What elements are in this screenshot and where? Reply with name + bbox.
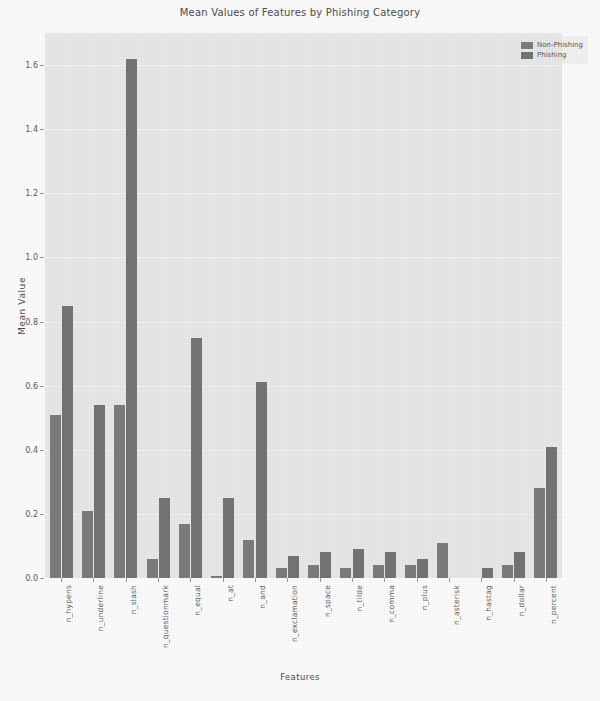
- bar: [256, 382, 267, 578]
- x-tick-label: n_hypens: [64, 585, 73, 622]
- x-tick-label: n_space: [323, 585, 332, 617]
- legend-swatch-icon: [521, 42, 533, 49]
- x-tick-mark: [126, 578, 127, 582]
- bar: [340, 568, 351, 578]
- y-tick-label: 1.4: [25, 125, 38, 134]
- x-tick-mark: [223, 578, 224, 582]
- x-axis-label: Features: [0, 672, 600, 682]
- bar: [405, 565, 416, 578]
- x-tick-mark: [384, 578, 385, 582]
- y-tick-label: 0.6: [25, 381, 38, 390]
- x-tick-label: n_questionmark: [161, 585, 170, 648]
- y-tick-mark: [40, 386, 44, 387]
- bar: [126, 59, 137, 578]
- x-tick-label: n_and: [258, 585, 267, 609]
- x-tick-label: n_tilde: [355, 585, 364, 611]
- x-tick-label: n_equal: [193, 585, 202, 616]
- legend-item-label: Non-Phishing: [537, 41, 583, 49]
- x-tick-label: n_percent: [549, 585, 558, 624]
- x-tick-label: n_plus: [420, 585, 429, 610]
- chart-legend: Non-PhishingPhishing: [516, 36, 588, 64]
- x-tick-label: n_underline: [96, 585, 105, 631]
- legend-swatch-icon: [521, 52, 533, 59]
- x-tick-mark: [481, 578, 482, 582]
- bar: [514, 552, 525, 578]
- legend-item: Non-Phishing: [521, 41, 583, 49]
- bar: [308, 565, 319, 578]
- x-tick-mark: [158, 578, 159, 582]
- y-tick-label: 1.6: [25, 61, 38, 70]
- bar: [223, 498, 234, 578]
- x-tick-label: n_hastag: [484, 585, 493, 621]
- bar: [502, 565, 513, 578]
- bar: [320, 552, 331, 578]
- gridline: [45, 129, 562, 130]
- x-tick-mark: [287, 578, 288, 582]
- x-tick-mark: [190, 578, 191, 582]
- bar: [417, 559, 428, 578]
- bar: [385, 552, 396, 578]
- bar: [82, 511, 93, 578]
- x-tick-mark: [320, 578, 321, 582]
- y-tick-label: 1.2: [25, 189, 38, 198]
- y-tick-mark: [40, 193, 44, 194]
- bar: [534, 488, 545, 578]
- y-tick-mark: [40, 65, 44, 66]
- x-tick-mark: [255, 578, 256, 582]
- gridline: [45, 386, 562, 387]
- bar: [94, 405, 105, 578]
- y-tick-mark: [40, 322, 44, 323]
- bar: [191, 338, 202, 578]
- y-tick-label: 0.4: [25, 445, 38, 454]
- bar: [546, 447, 557, 578]
- x-tick-mark: [61, 578, 62, 582]
- bar: [62, 306, 73, 579]
- y-tick-mark: [40, 129, 44, 130]
- x-tick-mark: [93, 578, 94, 582]
- y-tick-label: 0.2: [25, 509, 38, 518]
- bar: [373, 565, 384, 578]
- y-tick-label: 0.8: [25, 317, 38, 326]
- bar: [159, 498, 170, 578]
- x-tick-label: n_asterisk: [452, 585, 461, 625]
- bar: [353, 549, 364, 578]
- bar: [482, 568, 493, 578]
- legend-item-label: Phishing: [537, 51, 567, 59]
- x-tick-label: n_dollar: [517, 585, 526, 616]
- y-tick-mark: [40, 514, 44, 515]
- bar: [288, 556, 299, 578]
- x-tick-mark: [417, 578, 418, 582]
- y-axis: Mean Value 0.00.20.40.60.81.01.21.41.6: [0, 33, 45, 578]
- x-axis: n_hypensn_underlinen_slashn_questionmark…: [45, 578, 562, 673]
- x-tick-mark: [514, 578, 515, 582]
- x-tick-label: n_at: [226, 585, 235, 602]
- chart-figure: Mean Values of Features by Phishing Cate…: [0, 0, 600, 701]
- bar: [179, 524, 190, 579]
- y-tick-label: 0.0: [25, 574, 38, 583]
- x-tick-label: n_slash: [129, 585, 138, 614]
- y-tick-label: 1.0: [25, 253, 38, 262]
- bar: [437, 543, 448, 578]
- chart-title: Mean Values of Features by Phishing Cate…: [0, 7, 600, 18]
- x-tick-label: n_exclamation: [290, 585, 299, 642]
- x-tick-label: n_comma: [387, 585, 396, 623]
- y-tick-mark: [40, 450, 44, 451]
- x-tick-mark: [546, 578, 547, 582]
- gridline: [45, 65, 562, 66]
- bar: [243, 540, 254, 578]
- legend-item: Phishing: [521, 51, 583, 59]
- plot-area: [45, 33, 562, 578]
- bar: [114, 405, 125, 578]
- gridline: [45, 257, 562, 258]
- gridline: [45, 193, 562, 194]
- x-tick-mark: [449, 578, 450, 582]
- bar: [147, 559, 158, 578]
- bar: [50, 415, 61, 579]
- x-tick-mark: [352, 578, 353, 582]
- y-tick-mark: [40, 578, 44, 579]
- gridline: [45, 322, 562, 323]
- y-tick-mark: [40, 257, 44, 258]
- bar: [276, 568, 287, 578]
